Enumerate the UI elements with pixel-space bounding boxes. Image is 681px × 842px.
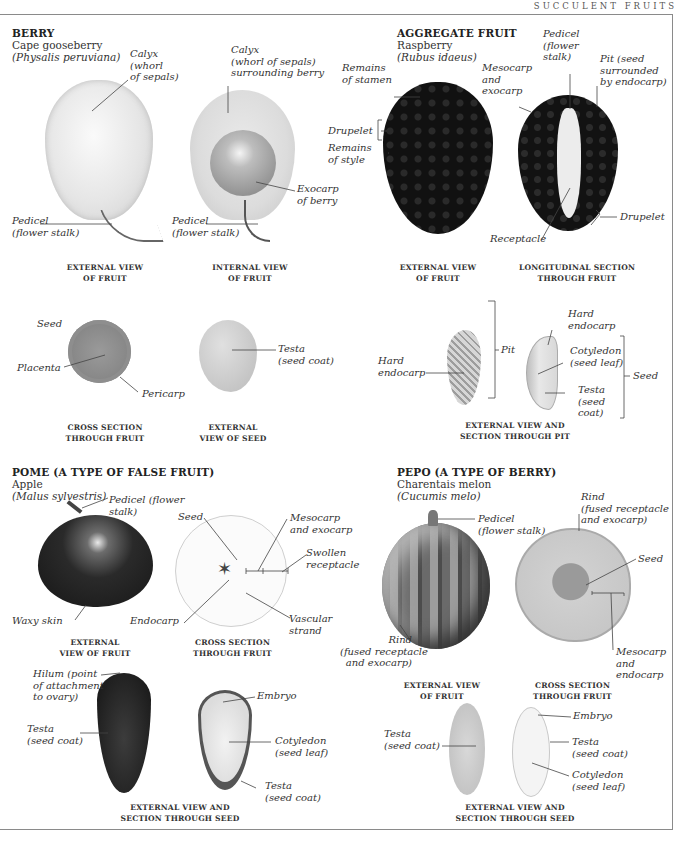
label-calyx-external: Calyx (whorl of sepals) [130, 48, 179, 83]
label-testa-external: Testa (seed coat) [384, 728, 440, 751]
label-drupelet-section: Drupelet [620, 211, 665, 223]
label-calyx-internal: Calyx (whorl of sepals) surrounding berr… [231, 44, 324, 79]
caption-longitudinal-section: LONGITUDINAL SECTION THROUGH FRUIT [512, 262, 642, 284]
caption-cross-section: CROSS SECTION THROUGH FRUIT [180, 637, 285, 659]
caption-internal-fruit: INTERNAL VIEW OF FRUIT [200, 262, 300, 284]
caption-pit: EXTERNAL VIEW AND SECTION THROUGH PIT [450, 420, 580, 442]
apple-core-star: ✶ [217, 560, 232, 578]
gooseberry-berry [210, 130, 276, 196]
label-cotyledon: Cotyledon (seed leaf) [572, 769, 625, 792]
label-pit: Pit (seed surrounded by endocarp) [600, 53, 667, 88]
label-testa-external: Testa (seed coat) [27, 723, 83, 746]
label-mesocarp-endocarp: Mesocarp and endocarp [616, 646, 666, 681]
section-title: POME (A TYPE OF FALSE FRUIT) [12, 466, 214, 478]
caption-external-fruit: EXTERNAL VIEW OF FRUIT [388, 262, 488, 284]
gooseberry-cross-section-image [68, 320, 131, 383]
common-name: Apple [12, 478, 214, 490]
melon-stalk [428, 510, 438, 526]
melon-seed-external-image [449, 703, 485, 795]
label-remains-of-stamen: Remains of stamen [342, 62, 392, 85]
common-name: Charentais melon [397, 478, 556, 490]
label-seed-bracket: Seed [633, 370, 658, 382]
section-berry: BERRY Cape gooseberry (Physalis peruvian… [12, 27, 120, 63]
label-hard-endocarp-external: Hard endocarp [378, 355, 426, 378]
caption-external-fruit: EXTERNAL VIEW OF FRUIT [392, 680, 492, 702]
section-title: AGGREGATE FRUIT [397, 27, 517, 39]
label-hilum: Hilum (point of attachment to ovary) [33, 668, 104, 703]
label-testa: Testa (seed coat) [278, 343, 334, 366]
section-title: BERRY [12, 27, 120, 39]
label-endocarp: Endocarp [130, 615, 179, 627]
raspberry-receptacle [557, 108, 581, 218]
apple-external-image [38, 515, 153, 607]
label-drupelet-external: Drupelet [328, 125, 373, 137]
label-remains-of-style: Remains of style [328, 142, 372, 165]
caption-external-seed: EXTERNAL VIEW OF SEED [188, 422, 278, 444]
label-exocarp: Exocarp of berry [297, 183, 339, 206]
caption-external-fruit: EXTERNAL VIEW OF FRUIT [55, 262, 155, 284]
caption-cross-section: CROSS SECTION THROUGH FRUIT [520, 680, 625, 702]
common-name: Raspberry [397, 39, 517, 51]
label-testa-section: Testa (seed coat) [572, 736, 628, 759]
gooseberry-external-image [45, 80, 153, 220]
melon-cross-section-image [515, 528, 631, 642]
caption-seed: EXTERNAL VIEW AND SECTION THROUGH SEED [450, 802, 580, 824]
label-waxy-skin: Waxy skin [12, 615, 63, 627]
label-placenta: Placenta [17, 362, 61, 374]
label-pedicel-external: Pedicel (flower stalk) [12, 215, 79, 238]
scientific-name: (Physalis peruviana) [12, 51, 120, 63]
label-swollen-receptacle: Swollen receptacle [306, 547, 359, 570]
label-pedicel: Pedicel (flower stalk) [109, 494, 185, 517]
label-rind-section: Rind (fused receptacle and exocarp) [581, 491, 669, 526]
label-hard-endocarp-section: Hard endocarp [568, 308, 616, 331]
scientific-name: (Cucumis melo) [397, 490, 556, 502]
label-pedicel-internal: Pedicel (flower stalk) [172, 215, 239, 238]
label-embryo: Embryo [257, 690, 297, 702]
label-pedicel: Pedicel (flower stalk) [543, 28, 580, 63]
label-receptacle: Receptacle [490, 233, 546, 245]
label-cotyledon: Cotyledon (seed leaf) [570, 345, 623, 368]
label-mesocarp-exocarp: Mesocarp and exocarp [290, 512, 352, 535]
caption-seed: EXTERNAL VIEW AND SECTION THROUGH SEED [115, 802, 245, 824]
melon-external-image [382, 523, 490, 649]
label-pedicel: Pedicel (flower stalk) [478, 513, 545, 536]
label-vascular-strand: Vascular strand [289, 613, 332, 636]
label-seed: Seed [638, 553, 663, 565]
label-embryo: Embryo [573, 710, 613, 722]
label-testa-section: Testa (seed coat) [265, 780, 321, 803]
caption-external-fruit: EXTERNAL VIEW OF FRUIT [45, 637, 145, 659]
common-name: Cape gooseberry [12, 39, 120, 51]
section-pepo: PEPO (A TYPE OF BERRY) Charentais melon … [397, 466, 556, 502]
label-mesocarp-exocarp: Mesocarp and exocarp [482, 62, 532, 97]
label-testa: Testa (seed coat) [578, 384, 605, 419]
running-head: SUCCULENT FRUITS [534, 1, 677, 11]
label-seed: Seed [37, 318, 62, 330]
label-pit-bracket: Pit [501, 344, 515, 356]
melon-seed-section-image [512, 707, 550, 797]
label-rind-external: Rind (fused receptacle and exocarp) [340, 634, 412, 669]
label-cotyledon: Cotyledon (seed leaf) [275, 735, 328, 758]
caption-cross-section: CROSS SECTION THROUGH FRUIT [55, 422, 155, 444]
section-title: PEPO (A TYPE OF BERRY) [397, 466, 556, 478]
label-pericarp: Pericarp [142, 388, 185, 400]
label-seed: Seed [178, 511, 203, 523]
section-aggregate-fruit: AGGREGATE FRUIT Raspberry (Rubus idaeus) [397, 27, 517, 63]
